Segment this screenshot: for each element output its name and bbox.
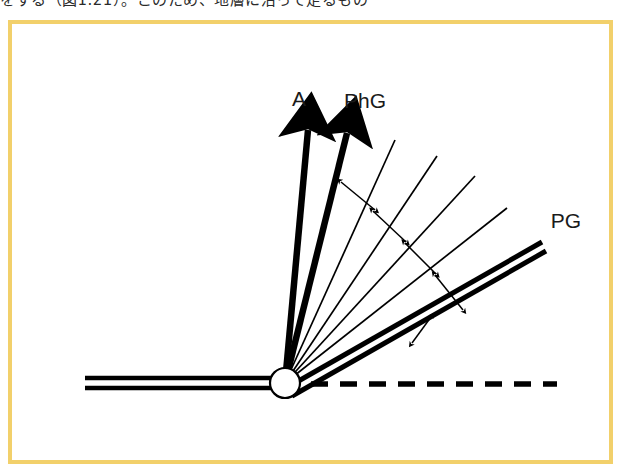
figure-diagram: A PhG PG (8, 20, 613, 464)
angle-marker-3 (405, 243, 436, 274)
bedding-line-left (85, 378, 273, 388)
angle-markers (341, 182, 463, 343)
label-phg: PhG (344, 89, 386, 112)
page-root: をする（図1.21）。このため、地層に沿って走るもの (0, 0, 623, 472)
ray-4 (285, 208, 507, 383)
origin-node (270, 368, 300, 398)
label-a: A (292, 87, 306, 110)
top-caption-text: をする（図1.21）。このため、地層に沿って走るもの (0, 0, 623, 10)
label-pg: PG (551, 209, 581, 232)
pg-line (288, 242, 546, 396)
ray-2 (285, 156, 437, 383)
angle-marker-2 (373, 211, 406, 242)
